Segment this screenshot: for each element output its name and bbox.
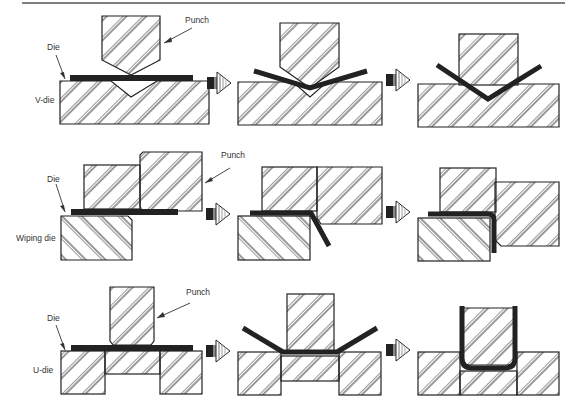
row-u-die: Punch Die U-die: [33, 287, 559, 395]
process-arrow-icon: [207, 72, 231, 94]
u-die-left-block: [418, 352, 460, 395]
die-type-label: U-die: [33, 365, 54, 375]
wiping-punch: [140, 152, 202, 211]
die-label: Die: [47, 313, 60, 323]
wiping-punch: [495, 182, 559, 246]
process-arrow-icon: [386, 339, 410, 361]
pressure-pad: [262, 167, 317, 211]
die-type-label: Wiping die: [16, 233, 56, 243]
u-die-stage-1: [56, 287, 202, 394]
u-die-left-block: [238, 352, 281, 395]
u-die-right-block: [339, 352, 381, 395]
die-label: Die: [47, 42, 60, 52]
process-arrow-icon: [206, 203, 230, 225]
u-die-right-block: [517, 352, 559, 395]
u-die-right-block: [160, 351, 202, 394]
u-punch: [463, 308, 514, 365]
u-die-stage-2: [238, 294, 381, 395]
u-punch: [287, 294, 334, 352]
sheet-metal: [71, 209, 178, 215]
process-arrow-icon: [386, 69, 410, 91]
pressure-pad: [84, 165, 140, 209]
u-die-ejector: [105, 351, 160, 374]
u-punch: [110, 287, 154, 345]
bending-dies-diagram: Punch Die V-die Punch: [0, 0, 575, 409]
u-die-left-block: [61, 351, 105, 394]
v-die-stage-2: [238, 23, 382, 125]
wiping-die-stage-2: [238, 167, 382, 260]
pressure-pad: [440, 168, 496, 212]
die-label: Die: [47, 174, 60, 184]
v-punch: [102, 16, 160, 75]
v-die-block: [60, 81, 209, 124]
v-die-block: [418, 84, 559, 127]
v-punch: [280, 23, 339, 88]
punch-label: Punch: [185, 15, 209, 25]
punch-label: Punch: [221, 150, 245, 160]
v-punch: [459, 34, 518, 85]
row-wiping-die: Punch Die Wiping die: [16, 150, 559, 261]
v-die-stage-1: [56, 16, 209, 124]
punch-label: Punch: [186, 287, 210, 297]
wiping-die-block: [61, 216, 132, 260]
sheet-metal: [71, 345, 193, 351]
wiping-punch: [317, 167, 382, 224]
u-die-ejector: [281, 356, 339, 381]
wiping-die-stage-1: [56, 152, 230, 260]
u-die-ejector: [460, 371, 517, 395]
u-die-stage-3: [418, 306, 559, 395]
sheet-metal: [70, 75, 193, 81]
wiping-die-block: [238, 216, 310, 260]
wiping-die-block: [418, 218, 490, 261]
row-v-die: Punch Die V-die: [35, 15, 559, 127]
v-die-stage-3: [418, 34, 559, 127]
wiping-die-stage-3: [418, 168, 559, 261]
process-arrow-icon: [386, 201, 410, 223]
process-arrow-icon: [206, 340, 230, 362]
die-type-label: V-die: [35, 95, 55, 105]
